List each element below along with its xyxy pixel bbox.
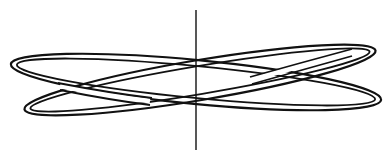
ring-b [21, 31, 379, 129]
two-rings-drawing [0, 0, 385, 158]
figure-canvas: Line drawing of two interlinked tilted r… [0, 0, 385, 158]
